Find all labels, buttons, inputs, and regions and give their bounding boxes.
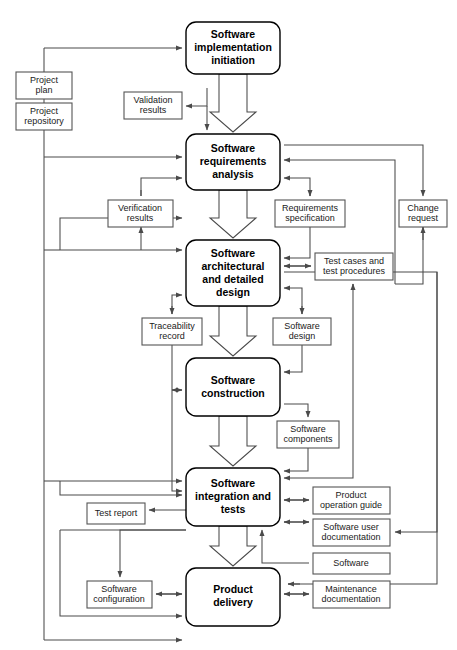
process-req-line-2: analysis: [212, 168, 254, 180]
process-implementation-initiation[interactable]: Software implementation initiation: [186, 22, 280, 74]
stage-arrow-impl-to-req: [210, 74, 256, 132]
conn-design-to-arch: [284, 288, 302, 314]
artifact-software-user-documentation-line-1: documentation: [321, 532, 380, 542]
artifact-product-operation-guide[interactable]: Product operation guide: [313, 487, 390, 514]
artifact-product-operation-guide-line-0: Product: [335, 490, 367, 500]
stage-arrow-req-to-arch: [210, 190, 256, 238]
artifact-software-configuration[interactable]: Software configuration: [87, 581, 152, 608]
artifact-verification-results-line-0: Verification: [118, 203, 162, 213]
process-constr-line-0: Software: [211, 374, 256, 386]
process-integ-line-0: Software: [211, 477, 256, 489]
conn-trace-to-integ: [172, 390, 182, 491]
artifact-software-line-0: Software: [333, 558, 369, 568]
artifact-change-request-line-0: Change: [407, 203, 439, 213]
process-impl-line-0: Software: [211, 28, 256, 40]
artifact-project-repository-line-1: repository: [24, 116, 64, 126]
process-impl-line-2: initiation: [211, 54, 255, 66]
artifact-test-report-line-0: Test report: [95, 508, 138, 518]
artifact-software-components-line-1: components: [283, 434, 333, 444]
artifact-software[interactable]: Software: [313, 553, 390, 574]
artifact-change-request-line-1: request: [408, 213, 439, 223]
artifact-traceability-record[interactable]: Traceability record: [142, 318, 202, 345]
conn-design-to-constr: [284, 345, 302, 372]
artifact-project-plan-line-1: plan: [35, 85, 52, 95]
conn-testcases-to-integ: [284, 284, 353, 478]
artifact-software-components[interactable]: Software components: [277, 421, 339, 448]
process-arch-line-1: architectural: [201, 260, 264, 272]
artifact-test-report[interactable]: Test report: [87, 503, 145, 524]
artifact-product-operation-guide-line-1: operation guide: [320, 500, 382, 510]
process-integ-line-2: tests: [221, 503, 246, 515]
process-impl-line-1: implementation: [194, 41, 272, 53]
artifact-software-user-documentation[interactable]: Software user documentation: [313, 519, 390, 546]
artifact-validation-results[interactable]: Validation results: [124, 92, 182, 119]
artifact-test-cases-line-0: Test cases and: [324, 256, 384, 266]
conn-integ-to-config: [120, 530, 186, 577]
process-construction[interactable]: Software construction: [186, 358, 280, 416]
artifact-test-cases-line-1: test procedures: [323, 266, 386, 276]
artifact-maintenance-documentation[interactable]: Maintenance documentation: [313, 581, 390, 608]
process-req-line-1: requirements: [200, 155, 267, 167]
conn-reqspec-to-req: [284, 178, 310, 196]
process-integration-tests[interactable]: Software integration and tests: [186, 468, 280, 526]
diagram-canvas: Project plan Project repository Validati…: [0, 0, 457, 650]
conn-components-to-integ: [284, 448, 308, 471]
artifact-requirements-specification[interactable]: Requirements specification: [275, 200, 345, 227]
process-product-delivery[interactable]: Product delivery: [186, 568, 280, 626]
artifact-software-user-documentation-line-0: Software user: [323, 522, 379, 532]
artifact-validation-results-line-1: results: [140, 105, 167, 115]
conn-constr-to-components: [284, 404, 308, 417]
conn-change-up: [395, 227, 423, 284]
artifact-software-configuration-line-0: Software: [101, 584, 137, 594]
process-requirements-analysis[interactable]: Software requirements analysis: [186, 134, 280, 190]
artifact-change-request[interactable]: Change request: [399, 200, 447, 227]
process-arch-line-3: design: [216, 286, 250, 298]
artifact-maintenance-documentation-line-0: Maintenance: [325, 584, 377, 594]
conn-spine-to-integ-2: [60, 481, 182, 495]
process-architectural-design[interactable]: Software architectural and detailed desi…: [186, 240, 280, 306]
artifact-software-design-line-1: design: [289, 331, 316, 341]
conn-traceability-to-arch: [172, 295, 182, 314]
artifact-traceability-record-line-0: Traceability: [149, 321, 195, 331]
artifact-project-repository[interactable]: Project repository: [16, 103, 72, 130]
artifact-validation-results-line-0: Validation: [134, 95, 173, 105]
artifact-software-design[interactable]: Software design: [273, 318, 331, 345]
stage-arrow-arch-to-constr: [210, 306, 256, 356]
artifact-software-components-line-0: Software: [290, 424, 326, 434]
artifact-software-configuration-line-1: configuration: [93, 594, 145, 604]
stage-arrow-constr-to-integ: [210, 416, 256, 466]
artifact-project-plan-line-0: Project: [30, 75, 59, 85]
artifact-requirements-specification-line-0: Requirements: [282, 203, 339, 213]
process-req-line-0: Software: [211, 142, 256, 154]
process-constr-line-1: construction: [201, 387, 265, 399]
artifact-software-design-line-0: Software: [284, 321, 320, 331]
conn-reqspec-to-arch: [284, 227, 310, 258]
artifact-requirements-specification-line-1: specification: [285, 213, 335, 223]
artifact-test-cases-procedures[interactable]: Test cases and test procedures: [315, 253, 393, 280]
process-arch-line-0: Software: [211, 247, 256, 259]
artifact-project-repository-line-0: Project: [30, 106, 59, 116]
stage-arrow-integ-to-delivery: [210, 526, 256, 566]
artifact-verification-results-line-1: results: [127, 213, 154, 223]
process-delivery-line-1: delivery: [213, 596, 253, 608]
artifact-maintenance-documentation-line-1: documentation: [321, 594, 380, 604]
conn-req-to-change: [284, 145, 423, 196]
conn-software-to-integ: [262, 530, 309, 563]
process-integ-line-1: integration and: [195, 490, 271, 502]
process-arch-line-2: and detailed: [202, 273, 263, 285]
conn-impl-to-validation: [186, 88, 207, 106]
artifact-traceability-record-line-1: record: [159, 331, 185, 341]
artifact-project-plan[interactable]: Project plan: [16, 72, 72, 99]
conn-verification-to-req: [141, 178, 182, 196]
flowchart-svg: Project plan Project repository Validati…: [0, 0, 457, 650]
process-delivery-line-0: Product: [213, 583, 253, 595]
artifact-verification-results[interactable]: Verification results: [108, 200, 173, 227]
